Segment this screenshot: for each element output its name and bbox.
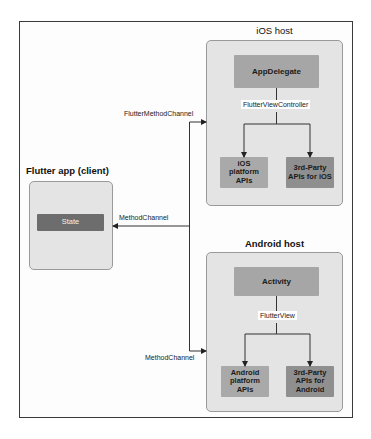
android-method-channel-label: MethodChannel: [145, 354, 194, 361]
client-method-channel-label: MethodChannel: [119, 214, 168, 221]
flutter-view-label: FlutterView: [258, 311, 297, 320]
connector-lines: [0, 0, 371, 439]
flutter-method-channel-label: FlutterMethodChannel: [124, 110, 193, 117]
flutter-view-controller-label: FlutterViewController: [241, 100, 310, 109]
